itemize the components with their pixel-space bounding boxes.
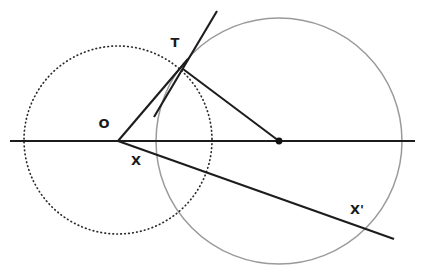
label-t: T <box>171 35 180 50</box>
geometry-diagram: O T X X' <box>0 0 423 280</box>
label-x: X <box>131 153 141 168</box>
geometry-canvas: O T X X' <box>0 0 423 280</box>
label-x-prime: X' <box>350 202 364 217</box>
gray-circle-center-dot <box>276 138 283 145</box>
label-o: O <box>98 116 109 131</box>
